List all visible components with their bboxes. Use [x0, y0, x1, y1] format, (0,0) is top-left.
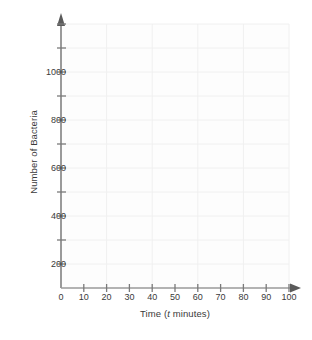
x-tick-label-90: 90 — [261, 292, 271, 302]
y-tick-label-600: 600 — [51, 163, 66, 173]
x-tick-label-20: 20 — [102, 292, 112, 302]
x-tick-label-0: 0 — [58, 292, 63, 302]
x-tick-label-30: 30 — [124, 292, 134, 302]
y-axis-title: Number of Bacteria — [26, 72, 42, 232]
y-tick-label-800: 800 — [51, 115, 66, 125]
x-tick-label-10: 10 — [79, 292, 89, 302]
x-tick-label-40: 40 — [147, 292, 157, 302]
x-axis-title-prefix: Time ( — [140, 308, 167, 319]
x-axis-title: Time (t minutes) — [61, 308, 289, 319]
plot-background — [61, 24, 289, 288]
x-tick-label-100: 100 — [281, 292, 296, 302]
y-tick-label-1000: 1000 — [46, 67, 66, 77]
x-tick-label-50: 50 — [170, 292, 180, 302]
y-tick-label-200: 200 — [51, 259, 66, 269]
x-tick-label-70: 70 — [216, 292, 226, 302]
plot-canvas — [0, 0, 312, 340]
y-tick-label-400: 400 — [51, 211, 66, 221]
x-tick-label-60: 60 — [193, 292, 203, 302]
x-tick-label-80: 80 — [238, 292, 248, 302]
bacteria-growth-chart: 200 400 600 800 1000 0 10 20 30 40 50 60… — [0, 0, 312, 340]
x-axis-title-suffix: minutes) — [170, 308, 210, 319]
